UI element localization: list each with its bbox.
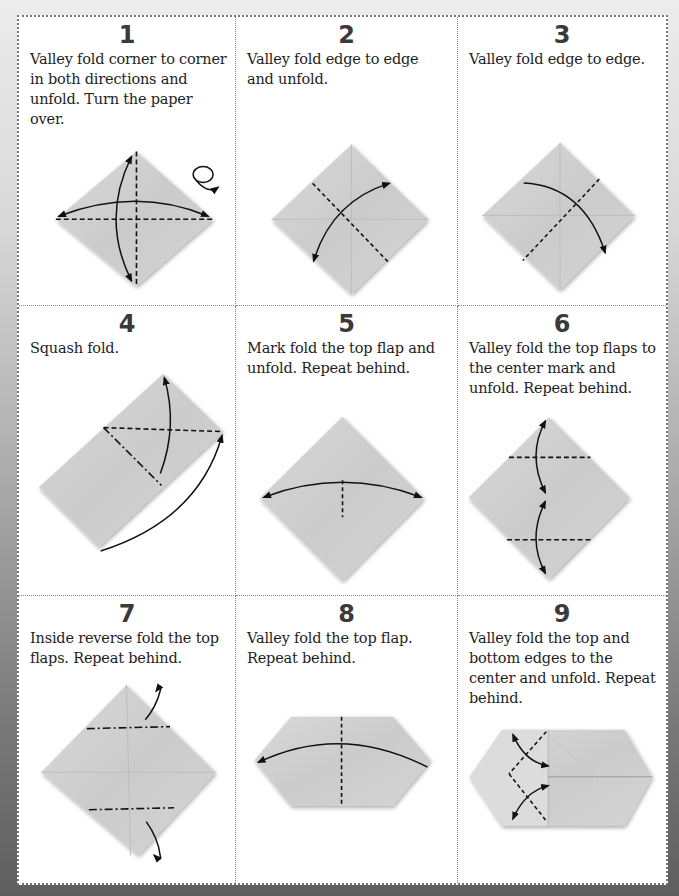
step-3-panel: 3 Valley fold edge to edge.	[458, 17, 666, 306]
step-8-panel: 8 Valley fold the top flap. Repeat behin…	[236, 596, 458, 883]
step-3-diagram	[458, 17, 666, 305]
step-6-diagram	[458, 306, 666, 595]
turn-over-icon	[193, 166, 218, 189]
step-7-diagram	[19, 596, 235, 883]
step-5-panel: 5 Mark fold the top flap and unfold. Rep…	[236, 306, 458, 596]
step-4-diagram	[19, 306, 235, 595]
step-5-diagram	[236, 306, 457, 595]
instruction-sheet: 1 Valley fold corner to corner in both d…	[17, 15, 668, 885]
step-2-diagram	[236, 17, 457, 305]
step-1-diagram	[19, 17, 235, 305]
step-1-panel: 1 Valley fold corner to corner in both d…	[19, 17, 236, 306]
step-7-panel: 7 Inside reverse fold the top flaps. Rep…	[19, 596, 236, 883]
step-8-diagram	[236, 596, 457, 883]
step-9-panel: 9 Valley fold the top and bottom edges t…	[458, 596, 666, 883]
step-2-panel: 2 Valley fold edge to edge and unfold.	[236, 17, 458, 306]
step-9-diagram	[458, 596, 666, 883]
step-4-panel: 4 Squash fold.	[19, 306, 236, 596]
step-6-panel: 6 Valley fold the top flaps to the cente…	[458, 306, 666, 596]
